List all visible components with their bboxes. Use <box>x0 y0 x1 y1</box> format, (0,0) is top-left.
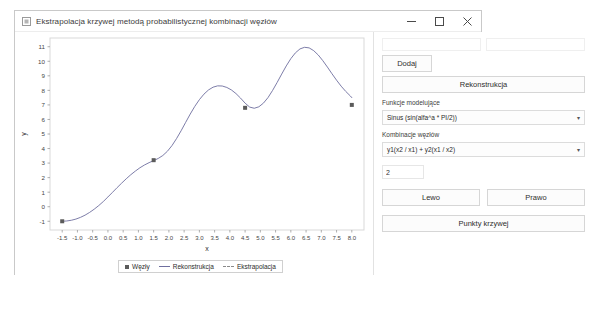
svg-text:6.0: 6.0 <box>287 235 296 241</box>
node-combination-label: Kombinacje węzłów <box>382 131 585 138</box>
app-window: Ekstrapolacja krzywej metodą probabilist… <box>14 10 482 275</box>
svg-text:10: 10 <box>38 58 45 65</box>
svg-text:2.0: 2.0 <box>165 235 174 241</box>
svg-text:2: 2 <box>42 174 46 181</box>
app-icon <box>19 14 33 28</box>
legend-entry-extrapolation: Ekstrapolacja <box>223 263 276 270</box>
legend-entry-reconstruction: Rekonstrukcja <box>159 263 214 270</box>
controls-spacer <box>382 236 585 271</box>
curve-points-button[interactable]: Punkty krzywej <box>382 215 585 232</box>
node-entry-row <box>382 38 585 51</box>
svg-text:5: 5 <box>42 130 46 137</box>
count-input[interactable] <box>382 165 424 179</box>
extrapolate-right-button[interactable]: Prawo <box>487 189 585 206</box>
svg-text:8: 8 <box>42 87 46 94</box>
svg-text:1.0: 1.0 <box>134 235 143 241</box>
svg-text:7: 7 <box>42 101 46 108</box>
chart-legend: Węzły Rekonstrukcja Ekstrapolacja <box>118 260 283 273</box>
svg-text:1: 1 <box>42 189 46 196</box>
svg-text:-1.0: -1.0 <box>72 235 83 241</box>
legend-entry-nodes: Węzły <box>125 263 150 270</box>
svg-text:-1: -1 <box>39 218 45 225</box>
svg-text:0: 0 <box>42 203 46 210</box>
legend-label-nodes: Węzły <box>132 263 150 270</box>
legend-label-reconstruction: Rekonstrukcja <box>173 263 214 270</box>
svg-text:-0.5: -0.5 <box>88 235 99 241</box>
controls-panel: Dodaj Rekonstrukcja Funkcje modelujące S… <box>373 32 589 275</box>
svg-text:y: y <box>20 132 28 136</box>
window-title: Ekstrapolacja krzywej metodą probabilist… <box>36 17 397 26</box>
legend-line-extrapolation-icon <box>223 266 234 267</box>
svg-text:5.5: 5.5 <box>271 235 280 241</box>
close-icon[interactable] <box>453 11 481 31</box>
direction-button-row: Lewo Prawo <box>382 189 585 206</box>
legend-marker-nodes-icon <box>125 265 129 269</box>
window-body: -101234567891011-1.5-1.0-0.50.00.51.01.5… <box>15 32 481 275</box>
svg-text:7.0: 7.0 <box>317 235 326 241</box>
svg-text:4.5: 4.5 <box>241 235 250 241</box>
legend-label-extrapolation: Ekstrapolacja <box>237 263 276 270</box>
model-function-select[interactable]: Sinus (sin(alfa^a * PI/2)) ▾ <box>382 110 585 125</box>
svg-text:6.5: 6.5 <box>302 235 311 241</box>
svg-text:11: 11 <box>39 43 46 50</box>
curve-chart[interactable]: -101234567891011-1.5-1.0-0.50.00.51.01.5… <box>15 32 373 275</box>
node-combination-value: y1(x2 / x1) + y2(x1 / x2) <box>387 146 455 153</box>
reconstruct-button[interactable]: Rekonstrukcja <box>382 76 585 93</box>
svg-text:x: x <box>205 245 209 252</box>
plot-panel: -101234567891011-1.5-1.0-0.50.00.51.01.5… <box>15 32 373 275</box>
title-bar: Ekstrapolacja krzywej metodą probabilist… <box>15 11 481 32</box>
minimize-icon[interactable] <box>397 11 425 31</box>
add-node-button[interactable]: Dodaj <box>382 55 432 72</box>
svg-text:8.0: 8.0 <box>348 235 357 241</box>
svg-text:3.5: 3.5 <box>210 235 219 241</box>
svg-text:3.0: 3.0 <box>195 235 204 241</box>
svg-text:1.5: 1.5 <box>149 235 158 241</box>
svg-text:7.5: 7.5 <box>332 235 341 241</box>
svg-text:4: 4 <box>42 145 46 152</box>
chevron-down-icon: ▾ <box>577 147 580 153</box>
svg-text:0.0: 0.0 <box>104 235 113 241</box>
extrapolate-left-button[interactable]: Lewo <box>382 189 480 206</box>
svg-text:5.0: 5.0 <box>256 235 265 241</box>
maximize-icon[interactable] <box>425 11 453 31</box>
chevron-down-icon: ▾ <box>577 115 580 121</box>
svg-text:3: 3 <box>42 159 46 166</box>
model-function-label: Funkcje modelujące <box>382 99 585 106</box>
node-combination-select[interactable]: y1(x2 / x1) + y2(x1 / x2) ▾ <box>382 142 585 157</box>
svg-text:4.0: 4.0 <box>226 235 235 241</box>
svg-text:6: 6 <box>42 116 46 123</box>
svg-text:0.5: 0.5 <box>119 235 128 241</box>
svg-text:9: 9 <box>42 72 46 79</box>
node-x-input[interactable] <box>382 38 481 51</box>
model-function-value: Sinus (sin(alfa^a * PI/2)) <box>387 114 457 121</box>
svg-text:2.5: 2.5 <box>180 235 189 241</box>
legend-line-reconstruction-icon <box>159 266 170 267</box>
node-y-input[interactable] <box>486 38 585 51</box>
svg-text:-1.5: -1.5 <box>57 235 68 241</box>
